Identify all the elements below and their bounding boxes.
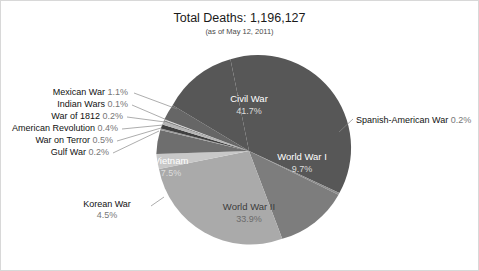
chart-frame: Total Deaths: 1,196,127 (as of May 12, 2… — [0, 0, 479, 271]
leader-line-war-of-1812 — [127, 117, 165, 122]
label-korean-war: Korean War 4.5% — [63, 199, 151, 221]
label-war-of-1812: War of 1812 0.2% — [51, 111, 123, 122]
label-war-on-terror-name: War on Terror — [35, 135, 90, 145]
label-vietnam: Vietnam 7.5% — [140, 155, 202, 179]
label-world-war-ii: World War II 33.9% — [204, 201, 294, 225]
leader-line-gulf-war — [113, 131, 159, 153]
leader-line-korean-war — [151, 197, 164, 206]
label-korean-war-name: Korean War — [63, 199, 151, 210]
label-indian-wars: Indian Wars 0.1% — [57, 99, 128, 110]
label-mexican-war: Mexican War 1.1% — [53, 87, 128, 98]
leader-line-mexican-war — [134, 93, 177, 109]
label-spanish-american-war-pct: 0.2% — [451, 115, 472, 125]
label-indian-wars-name: Indian Wars — [57, 99, 105, 109]
label-american-revolution: American Revolution 0.4% — [12, 123, 118, 134]
label-world-war-ii-pct: 33.9% — [204, 213, 294, 225]
label-gulf-war: Gulf War 0.2% — [51, 147, 109, 158]
label-indian-wars-pct: 0.1% — [107, 99, 128, 109]
label-vietnam-pct: 7.5% — [140, 167, 202, 179]
label-war-on-terror: War on Terror 0.5% — [35, 135, 113, 146]
label-civil-war: Civil War 41.7% — [205, 93, 293, 117]
label-world-war-i: World War I 9.7% — [263, 151, 341, 175]
label-korean-war-pct: 4.5% — [63, 210, 151, 221]
label-vietnam-name: Vietnam — [140, 155, 202, 167]
label-mexican-war-pct: 1.1% — [107, 87, 128, 97]
leader-line-american-revolution — [122, 125, 163, 129]
leader-line-war-on-terror — [117, 128, 161, 141]
label-war-of-1812-name: War of 1812 — [51, 111, 100, 121]
label-mexican-war-name: Mexican War — [53, 87, 105, 97]
label-american-revolution-name: American Revolution — [12, 123, 95, 133]
label-gulf-war-name: Gulf War — [51, 147, 86, 157]
label-war-of-1812-pct: 0.2% — [102, 111, 123, 121]
label-civil-war-pct: 41.7% — [205, 105, 293, 117]
label-world-war-i-name: World War I — [263, 151, 341, 163]
label-world-war-i-pct: 9.7% — [263, 163, 341, 175]
label-american-revolution-pct: 0.4% — [97, 123, 118, 133]
label-civil-war-name: Civil War — [205, 93, 293, 105]
leader-line-indian-wars — [132, 105, 167, 120]
label-war-on-terror-pct: 0.5% — [92, 135, 113, 145]
label-gulf-war-pct: 0.2% — [88, 147, 109, 157]
label-spanish-american-war: Spanish-American War 0.2% — [356, 115, 471, 126]
label-world-war-ii-name: World War II — [204, 201, 294, 213]
label-spanish-american-war-name: Spanish-American War — [356, 115, 448, 125]
